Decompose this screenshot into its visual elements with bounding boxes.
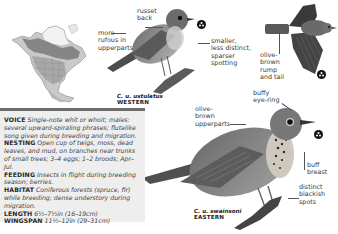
range-map <box>8 22 90 104</box>
eastern-caption: C. u. swainsoni EASTERN <box>194 208 241 220</box>
info-voice: VOICE Single-note whit or whoit; males: … <box>4 116 141 139</box>
info-nesting: NESTING Open cup of twigs, moss, dead le… <box>4 139 141 170</box>
info-habitat: HABITAT Coniferous forests (spruce, fir)… <box>4 186 141 209</box>
leader-line <box>112 33 126 34</box>
song-audio-icon[interactable] <box>197 20 206 29</box>
song-audio-icon[interactable] <box>314 130 323 139</box>
label-eye-ring: buffyeye-ring <box>253 90 279 105</box>
label-upperparts: olive-brownupperparts <box>195 106 230 128</box>
label-spotting: smaller,less distinct,sparserspotting <box>211 38 251 68</box>
label-rump-tail: olive-brownrumpand tail <box>260 52 284 82</box>
species-info-box: VOICE Single-note whit or whoit; males: … <box>0 108 145 222</box>
leader-line <box>145 27 163 28</box>
info-wingspan: WINGSPAN 11½–12in (29–31cm) <box>4 217 141 225</box>
leader-line <box>279 30 280 54</box>
leader-line <box>230 124 246 125</box>
label-russet-back: russetback <box>137 8 157 23</box>
leader-line <box>198 43 210 44</box>
song-audio-icon[interactable] <box>317 70 326 79</box>
label-spots: distinctblackishspots <box>299 184 325 206</box>
label-breast: buffbreast <box>307 162 327 177</box>
leader-line <box>304 152 305 170</box>
info-length: LENGTH 6½–7½in (16–19cm) <box>4 210 141 218</box>
info-feeding: FEEDING Insects in flight during breedin… <box>4 171 141 187</box>
leader-line <box>288 198 299 199</box>
